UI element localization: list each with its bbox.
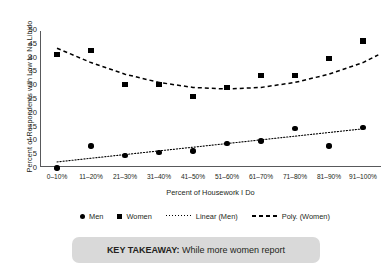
- plot-area: [40, 30, 380, 168]
- data-point-women: [88, 48, 93, 53]
- legend-item[interactable]: Women: [117, 212, 151, 221]
- legend-item[interactable]: Poly. (Women): [252, 212, 330, 221]
- x-axis-tick-labels: 0–10%11–20%21–30%31–40%41–50%51–60%61–70…: [40, 172, 381, 184]
- data-point-men: [326, 143, 331, 148]
- x-tick-label: 61–70%: [244, 172, 278, 181]
- data-point-women: [54, 52, 59, 57]
- x-tick-label: 0–10%: [40, 172, 74, 181]
- chart-legend: MenWomenLinear (Men)Poly. (Women): [40, 209, 370, 223]
- data-markers-layer: [40, 30, 380, 168]
- x-tick-label: 81–90%: [312, 172, 346, 181]
- y-axis-tick-labels: 05101520253035404550: [0, 0, 37, 258]
- data-point-men: [190, 148, 195, 153]
- data-point-men: [292, 126, 297, 131]
- y-tick-label: 15: [3, 123, 37, 131]
- data-point-men: [54, 165, 59, 170]
- data-point-men: [360, 125, 365, 130]
- y-tick-label: 10: [3, 136, 37, 144]
- x-axis-title: Percent of Housework I Do: [40, 188, 381, 197]
- x-tick-label: 91–100%: [346, 172, 380, 181]
- dotted-line-icon: [166, 215, 192, 217]
- x-tick-label: 21–30%: [108, 172, 142, 181]
- filled-square-marker-icon: [117, 214, 122, 219]
- y-tick-label: 30: [3, 81, 37, 89]
- data-point-women: [190, 94, 195, 99]
- legend-item[interactable]: Linear (Men): [166, 212, 238, 221]
- data-point-women: [292, 73, 297, 78]
- x-tick-label: 51–60%: [210, 172, 244, 181]
- y-tick-label: 20: [3, 109, 37, 117]
- key-takeaway-text: While more women report: [182, 245, 285, 255]
- legend-label: Linear (Men): [196, 212, 238, 221]
- y-tick-label: 40: [3, 54, 37, 62]
- legend-item[interactable]: Men: [80, 212, 103, 221]
- y-tick-label: 50: [3, 26, 37, 34]
- legend-label: Men: [89, 212, 103, 221]
- data-point-women: [360, 38, 365, 43]
- dashed-line-icon: [252, 215, 278, 217]
- x-tick-label: 71–80%: [278, 172, 312, 181]
- y-tick-label: 5: [3, 150, 37, 158]
- data-point-men: [122, 153, 127, 158]
- y-tick-label: 45: [3, 40, 37, 48]
- legend-label: Women: [126, 212, 151, 221]
- filled-circle-marker-icon: [80, 214, 85, 219]
- key-takeaway-callout: KEY TAKEAWAY: While more women report: [72, 237, 320, 263]
- data-point-women: [326, 56, 331, 61]
- data-point-women: [156, 82, 161, 87]
- data-point-women: [258, 73, 263, 78]
- data-point-men: [258, 138, 263, 143]
- x-tick-label: 11–20%: [74, 172, 108, 181]
- y-tick-label: 0: [3, 164, 37, 172]
- data-point-men: [224, 141, 229, 146]
- x-tick-label: 41–50%: [176, 172, 210, 181]
- data-point-women: [224, 85, 229, 90]
- data-point-men: [88, 143, 93, 148]
- data-point-women: [122, 82, 127, 87]
- data-point-men: [156, 150, 161, 155]
- x-tick-label: 31–40%: [142, 172, 176, 181]
- y-tick-label: 25: [3, 95, 37, 103]
- legend-label: Poly. (Women): [282, 212, 330, 221]
- key-takeaway-prefix: KEY TAKEAWAY:: [107, 245, 180, 255]
- y-tick-label: 35: [3, 67, 37, 75]
